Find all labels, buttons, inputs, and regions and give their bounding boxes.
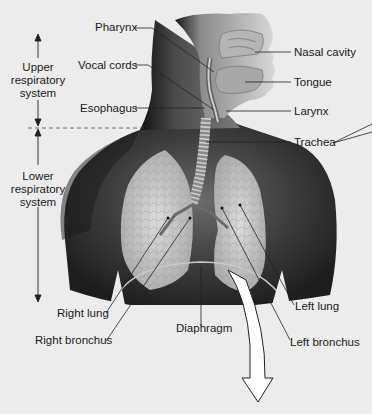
lower-respiratory-system-label: Lower respiratory system [0,170,78,209]
left-bronchus-label: Left bronchus [290,336,360,349]
upper-respiratory-system-label: Upper respiratory system [0,61,78,100]
left-lung-label: Left lung [295,300,339,313]
arrow-down-icon [35,295,41,302]
vocal-cords-label: Vocal cords [78,59,137,72]
larynx-label: Larynx [294,105,329,118]
right-bronchus-label: Right bronchus [35,334,112,347]
diaphragm-label: Diaphragm [176,322,232,335]
nasal-cavity-shape [219,30,263,58]
right-lung-label: Right lung [57,307,109,320]
arrow-up-icon [35,34,41,41]
arrow-up-icon [35,129,41,136]
trachea-label: Trachea [294,136,336,149]
tongue-label: Tongue [294,76,332,89]
esophagus-label: Esophagus [80,102,138,115]
tongue-shape [215,66,263,94]
nasal-cavity-label: Nasal cavity [294,46,356,59]
pharynx-label: Pharynx [95,21,137,34]
respiratory-diagram: Upper respiratory system Lower respirato… [0,0,372,414]
arrow-down-icon [35,119,41,126]
